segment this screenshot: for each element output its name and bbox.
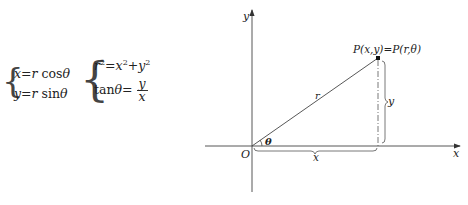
point-p-marker (376, 56, 380, 60)
point-label: P(x,y)=P(r,θ) (352, 43, 421, 55)
radius-label: r (315, 90, 321, 101)
radius-line (252, 58, 378, 146)
origin-label: O (241, 148, 250, 161)
x-axis-label: x (453, 147, 460, 160)
x-distance-label: x (313, 151, 319, 163)
y-axis-label: y (242, 10, 250, 23)
y-distance-label: y (387, 95, 395, 108)
polar-coordinate-diagram: y x O r θ P(x,y)=P(r,θ) x y (0, 0, 468, 205)
angle-label: θ (265, 136, 272, 147)
angle-arc (260, 140, 262, 146)
